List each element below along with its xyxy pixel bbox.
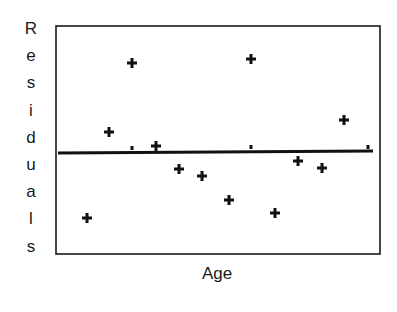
plus-marker (224, 195, 234, 205)
plus-marker (270, 208, 280, 218)
plus-marker (293, 156, 303, 166)
plus-marker (197, 171, 207, 181)
y-axis-label-letter: R (25, 19, 37, 38)
zero-reference-line (58, 151, 373, 153)
plus-marker (339, 115, 349, 125)
plot-frame (56, 26, 380, 254)
point-on-line-marker (250, 145, 253, 149)
on-line-ticks (131, 145, 370, 150)
plus-marker (151, 141, 161, 151)
plus-marker (174, 164, 184, 174)
data-points (82, 54, 349, 223)
plus-marker (104, 127, 114, 137)
y-axis-label-letter: e (26, 46, 35, 65)
plus-marker (317, 163, 327, 173)
y-axis-label-letter: l (29, 209, 33, 228)
residual-plot: Residuals Age (0, 0, 397, 312)
y-axis-label-letter: a (26, 182, 36, 201)
plus-marker (127, 58, 137, 68)
point-on-line-marker (367, 145, 370, 149)
y-axis-label-letter: u (26, 155, 35, 174)
x-axis-label: Age (202, 264, 232, 283)
point-on-line-marker (131, 146, 134, 150)
plus-marker (82, 213, 92, 223)
y-axis-label: Residuals (25, 19, 37, 256)
y-axis-label-letter: s (27, 237, 36, 256)
y-axis-label-letter: d (26, 128, 35, 147)
plus-marker (246, 54, 256, 64)
y-axis-label-letter: i (29, 101, 33, 120)
y-axis-label-letter: s (27, 73, 36, 92)
